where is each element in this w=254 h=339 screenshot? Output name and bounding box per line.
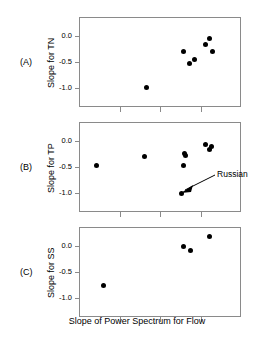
x-axis-title: Slope of Power Spectrum for Flow [10,316,254,326]
panel-a-ytick-label: -1.0 [41,83,72,92]
data-point [207,147,212,152]
panel-b-ytick-mark [75,193,79,194]
panel-b-xtick-mark [160,212,161,217]
data-point [207,234,212,239]
panel-c-letter: (C) [20,267,33,277]
panel-b-ytick-label: -1.0 [41,188,72,197]
panel-b-ytick-mark [75,167,79,168]
panel-b-ytick-mark [75,141,79,142]
panel-b-letter: (B) [20,162,32,172]
panel-a-letter: (A) [20,57,32,67]
data-point [207,36,212,41]
panel-b-xtick-mark [120,212,121,217]
figure-container: (A) Slope for TN 0.0-0.5-1.0 (B) Slope f… [0,0,254,339]
panel-a-xtick-mark [160,107,161,112]
data-point [181,49,186,54]
data-point [192,57,197,62]
panel-b-ytick-label: 0.0 [41,136,72,145]
data-point [203,142,208,147]
panel-c-ytick-mark [75,272,79,273]
panel-b-ytick-label: -0.5 [41,162,72,171]
data-point [101,283,106,288]
panel-c-plot-area [79,227,241,317]
panel-a-xtick-mark [201,107,202,112]
panel-a-ytick-label: -0.5 [41,57,72,66]
panel-a-xtick-mark [120,107,121,112]
panel-a-ytick-mark [75,88,79,89]
panel-c-ytick-label: -1.0 [41,293,72,302]
panel-a-ytick-mark [75,62,79,63]
panel-c-ytick-label: 0.0 [41,241,72,250]
panel-a-plot-area [79,17,241,107]
panel-a-ytick-label: 0.0 [41,31,72,40]
data-point [203,42,208,47]
annotation-arrow-icon [177,169,237,209]
panel-c-ytick-label: -0.5 [41,267,72,276]
panel-a-ytick-mark [75,36,79,37]
panel-b-xtick-mark [201,212,202,217]
panel-c-ytick-mark [75,298,79,299]
panel-c-ytick-mark [75,246,79,247]
